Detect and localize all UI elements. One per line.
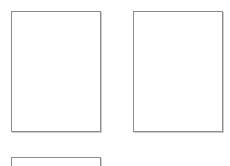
placeholder-box-1[interactable] [11, 11, 101, 132]
placeholder-box-2[interactable] [133, 11, 223, 132]
placeholder-box-3[interactable] [11, 157, 101, 166]
page-canvas [0, 0, 230, 166]
placeholder-box-2-label [134, 12, 222, 131]
placeholder-box-3-label [12, 158, 100, 166]
placeholder-box-1-label [12, 12, 100, 131]
